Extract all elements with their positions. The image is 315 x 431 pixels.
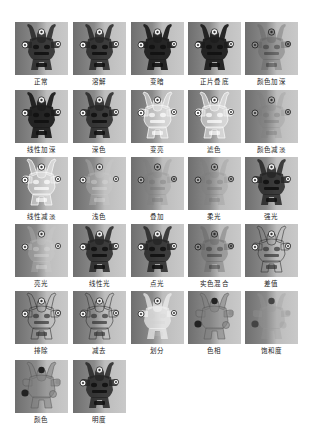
blend-mode-label: 颜色加深 xyxy=(245,78,298,86)
blend-mode-cell: 溶解 xyxy=(73,22,126,86)
blend-mode-cell: 浅色 xyxy=(73,157,126,221)
blend-mode-cell: 正片叠底 xyxy=(188,22,241,86)
blend-mode-label: 线性光 xyxy=(73,280,126,288)
blend-mode-preview-image xyxy=(131,22,184,75)
toy-figure-icon xyxy=(73,224,126,277)
blend-mode-cell: 线性光 xyxy=(73,224,126,288)
blend-mode-label: 实色混合 xyxy=(188,280,241,288)
blend-mode-cell: 颜色 xyxy=(15,360,68,424)
blend-mode-cell: 颜色减淡 xyxy=(245,90,298,154)
blend-mode-cell: 柔光 xyxy=(188,157,241,221)
blend-mode-cell: 正常 xyxy=(15,22,68,86)
toy-figure-icon xyxy=(188,224,241,277)
blend-mode-cell: 滤色 xyxy=(188,90,241,154)
toy-figure-icon xyxy=(15,360,68,413)
blend-mode-preview-image xyxy=(73,360,126,413)
toy-figure-icon xyxy=(245,157,298,210)
toy-figure-icon xyxy=(245,224,298,277)
blend-mode-preview-image xyxy=(131,224,184,277)
blend-mode-preview-image xyxy=(73,22,126,75)
blend-mode-preview-image xyxy=(15,157,68,210)
blend-mode-cell: 实色混合 xyxy=(188,224,241,288)
blend-mode-label: 差值 xyxy=(245,280,298,288)
blend-mode-label: 划分 xyxy=(131,347,184,355)
blend-mode-label: 颜色 xyxy=(15,416,68,424)
blend-mode-label: 深色 xyxy=(73,146,126,154)
toy-figure-icon xyxy=(131,157,184,210)
blend-mode-cell: 线性减淡 xyxy=(15,157,68,221)
toy-figure-icon xyxy=(188,90,241,143)
toy-figure-icon xyxy=(15,291,68,344)
blend-mode-preview-image xyxy=(188,291,241,344)
blend-mode-preview-image xyxy=(188,90,241,143)
blend-mode-label: 排除 xyxy=(15,347,68,355)
blend-mode-label: 明度 xyxy=(73,416,126,424)
toy-figure-icon xyxy=(15,90,68,143)
blend-mode-preview-image xyxy=(245,22,298,75)
blend-mode-label: 强光 xyxy=(245,213,298,221)
blend-mode-label: 柔光 xyxy=(188,213,241,221)
toy-figure-icon xyxy=(188,157,241,210)
blend-mode-cell: 差值 xyxy=(245,224,298,288)
blend-mode-label: 饱和度 xyxy=(245,347,298,355)
blend-mode-preview-image xyxy=(188,22,241,75)
blend-mode-preview-image xyxy=(73,224,126,277)
toy-figure-icon xyxy=(245,291,298,344)
blend-mode-cell: 亮光 xyxy=(15,224,68,288)
toy-figure-icon xyxy=(73,291,126,344)
toy-figure-icon xyxy=(73,22,126,75)
blend-mode-cell: 点光 xyxy=(131,224,184,288)
blend-mode-preview-image xyxy=(15,360,68,413)
blend-mode-label: 溶解 xyxy=(73,78,126,86)
blend-mode-preview-image xyxy=(73,291,126,344)
blend-mode-cell: 变亮 xyxy=(131,90,184,154)
toy-figure-icon xyxy=(131,22,184,75)
toy-figure-icon xyxy=(131,291,184,344)
blend-mode-label: 线性加深 xyxy=(15,146,68,154)
toy-figure-icon xyxy=(15,157,68,210)
blend-mode-preview-image xyxy=(15,90,68,143)
toy-figure-icon xyxy=(73,360,126,413)
toy-figure-icon xyxy=(15,224,68,277)
toy-figure-icon xyxy=(73,90,126,143)
toy-figure-icon xyxy=(245,90,298,143)
blend-mode-label: 正常 xyxy=(15,78,68,86)
blend-mode-cell: 颜色加深 xyxy=(245,22,298,86)
blend-mode-cell: 减去 xyxy=(73,291,126,355)
blend-mode-preview-image xyxy=(131,90,184,143)
toy-figure-icon xyxy=(131,90,184,143)
blend-mode-label: 滤色 xyxy=(188,146,241,154)
blend-mode-cell: 划分 xyxy=(131,291,184,355)
blend-mode-label: 叠加 xyxy=(131,213,184,221)
blend-mode-preview-image xyxy=(73,90,126,143)
blend-mode-preview-image xyxy=(245,90,298,143)
blend-mode-preview-image xyxy=(15,224,68,277)
blend-mode-preview-image xyxy=(245,157,298,210)
blend-mode-preview-image xyxy=(188,157,241,210)
blend-mode-preview-image xyxy=(131,157,184,210)
blend-mode-label: 浅色 xyxy=(73,213,126,221)
blend-mode-label: 减去 xyxy=(73,347,126,355)
toy-figure-icon xyxy=(188,22,241,75)
blend-mode-label: 变亮 xyxy=(131,146,184,154)
blend-mode-label: 点光 xyxy=(131,280,184,288)
blend-mode-label: 变暗 xyxy=(131,78,184,86)
blend-mode-preview-image xyxy=(131,291,184,344)
toy-figure-icon xyxy=(15,22,68,75)
blend-mode-grid: 正常 溶解 xyxy=(0,0,315,431)
toy-figure-icon xyxy=(73,157,126,210)
blend-mode-cell: 饱和度 xyxy=(245,291,298,355)
blend-mode-preview-image xyxy=(245,224,298,277)
blend-mode-label: 色相 xyxy=(188,347,241,355)
blend-mode-cell: 线性加深 xyxy=(15,90,68,154)
blend-mode-preview-image xyxy=(245,291,298,344)
blend-mode-cell: 深色 xyxy=(73,90,126,154)
blend-mode-preview-image xyxy=(15,291,68,344)
blend-mode-cell: 叠加 xyxy=(131,157,184,221)
blend-mode-cell: 强光 xyxy=(245,157,298,221)
toy-figure-icon xyxy=(188,291,241,344)
toy-figure-icon xyxy=(131,224,184,277)
blend-mode-label: 线性减淡 xyxy=(15,213,68,221)
toy-figure-icon xyxy=(245,22,298,75)
blend-mode-preview-image xyxy=(188,224,241,277)
